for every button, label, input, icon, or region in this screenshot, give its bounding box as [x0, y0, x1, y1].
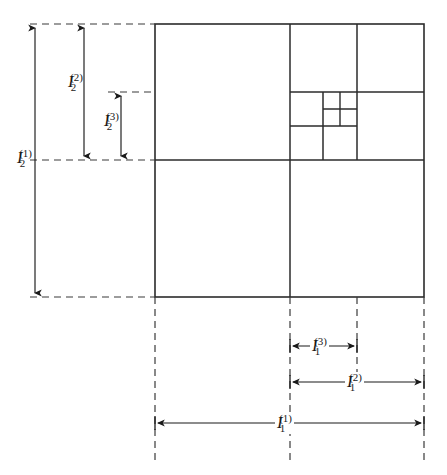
level-2-division-lines	[290, 24, 424, 160]
label-vertical-level-2: I2(2)	[68, 72, 83, 93]
label-vertical-level-3: I2(3)	[104, 111, 119, 132]
label-h1-sup: (1)	[279, 413, 292, 424]
label-v1-sub: 2	[20, 158, 26, 169]
label-h3-sup: (3)	[314, 336, 327, 347]
label-v3-sub: 2	[107, 121, 113, 132]
figure-root: I2(1) I2(2) I2(3) I1(3) I1(2) I1(1)	[0, 0, 447, 475]
label-horizontal-level-2: I1(2)	[345, 372, 364, 393]
label-h3-sub: 1	[315, 346, 321, 357]
label-horizontal-level-3: I1(3)	[310, 336, 329, 357]
label-h2-sub: 1	[350, 382, 356, 393]
label-v3-sup: (3)	[106, 111, 119, 122]
level-4-division-lines	[323, 92, 357, 126]
label-v2-sub: 2	[71, 82, 77, 93]
label-h2-sup: (2)	[349, 372, 362, 383]
label-vertical-level-1: I2(1)	[17, 148, 32, 169]
label-horizontal-level-1: I1(1)	[275, 413, 294, 434]
level-1-division-lines	[155, 24, 424, 297]
label-h1-sub: 1	[280, 423, 286, 434]
label-v2-sup: (2)	[70, 72, 83, 83]
level-3-division-lines	[290, 92, 357, 160]
dashed-guides	[30, 24, 424, 462]
label-v1-sup: (1)	[19, 148, 32, 159]
